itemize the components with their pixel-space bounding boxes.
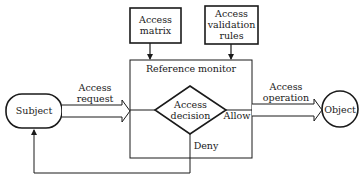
access-matrix-label: Access matrix [130,14,181,36]
access-request-label-line2: request [70,93,120,104]
access-operation-label-line2: operation [258,92,314,103]
access-request-label-line1: Access [70,82,120,93]
access-decision-label-line1: Access [155,99,226,110]
access-decision-label-line2: decision [155,110,226,121]
access-matrix-label-line1: Access [130,14,181,25]
deny-label: Deny [192,140,220,151]
access-validation-rules-label-line3: rules [205,30,258,41]
allow-label: Allow [222,110,252,121]
subject-label: Subject [6,105,62,116]
access-validation-rules-label: Access validation rules [205,8,258,41]
object-label: Object [322,104,358,115]
access-operation-label-line1: Access [258,81,314,92]
access-decision-label: Access decision [155,99,226,121]
access-operation-label: Access operation [258,81,314,103]
access-matrix-label-line2: matrix [130,25,181,36]
access-validation-rules-label-line1: Access [205,8,258,19]
access-request-label: Access request [70,82,120,104]
reference-monitor-label: Reference monitor [130,63,252,74]
access-validation-rules-label-line2: validation [205,19,258,30]
